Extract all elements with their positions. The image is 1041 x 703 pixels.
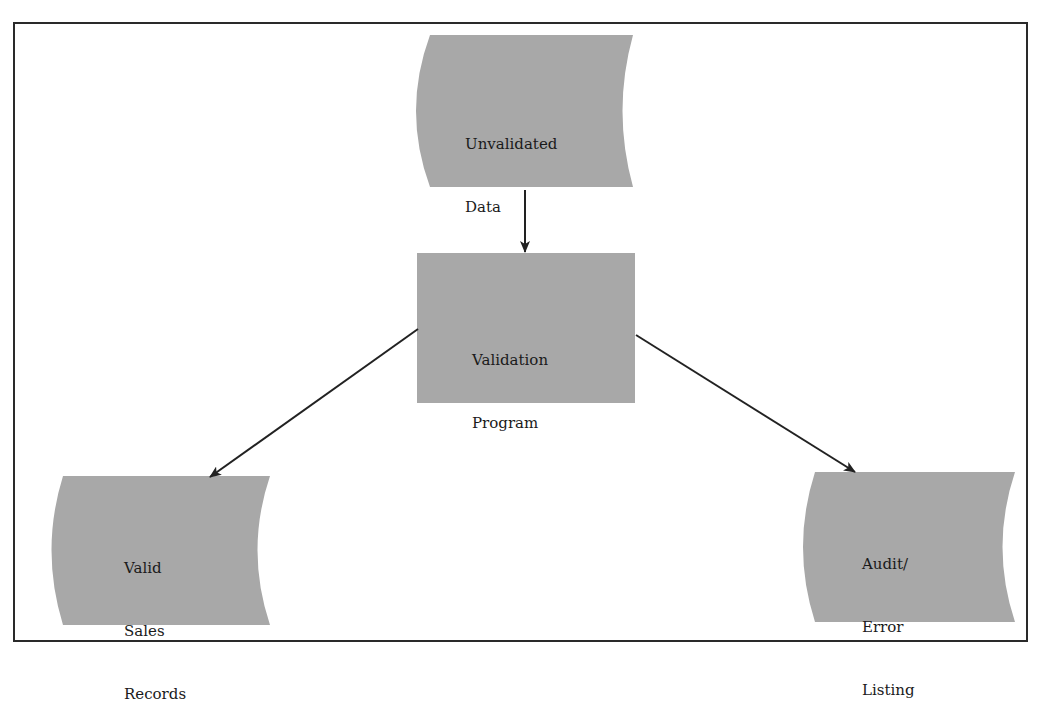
label-line: Validation: [472, 350, 548, 371]
label-line: Listing: [862, 680, 915, 701]
label-line: Audit/: [862, 554, 915, 575]
validation-program-label: Validation Program: [472, 308, 548, 455]
edge-program-to-audit: [636, 335, 855, 472]
unvalidated-data-label: Unvalidated Data: [465, 92, 557, 239]
label-line: Sales: [124, 621, 186, 642]
edge-program-to-valid: [210, 329, 418, 477]
valid-sales-records-label: Valid Sales Records: [124, 516, 186, 703]
label-line: Valid: [124, 558, 186, 579]
label-line: Unvalidated: [465, 134, 557, 155]
label-line: Records: [124, 684, 186, 703]
label-line: Program: [472, 413, 548, 434]
audit-error-listing-label: Audit/ Error Listing: [862, 512, 915, 703]
label-line: Data: [465, 197, 557, 218]
label-line: Error: [862, 617, 915, 638]
